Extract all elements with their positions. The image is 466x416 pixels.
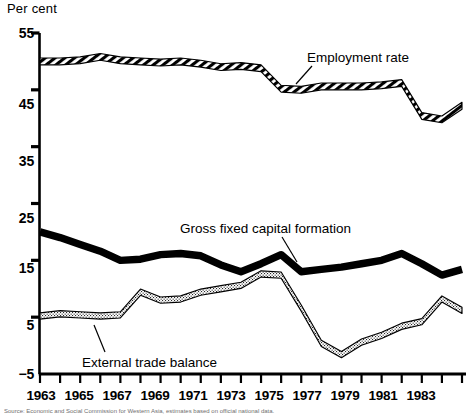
series-gross-fixed-capital-formation [40,232,462,275]
series-external-trade-balance [40,271,462,358]
chart-figure: Per cent 55 45 35 25 15 5 −5 1963 1965 1… [0,0,466,416]
plot-canvas [0,0,466,416]
series-employment-rate [40,53,462,122]
leader-external-trade-balance [94,325,105,352]
series-group [40,53,462,357]
leader-employment-rate [296,66,312,84]
